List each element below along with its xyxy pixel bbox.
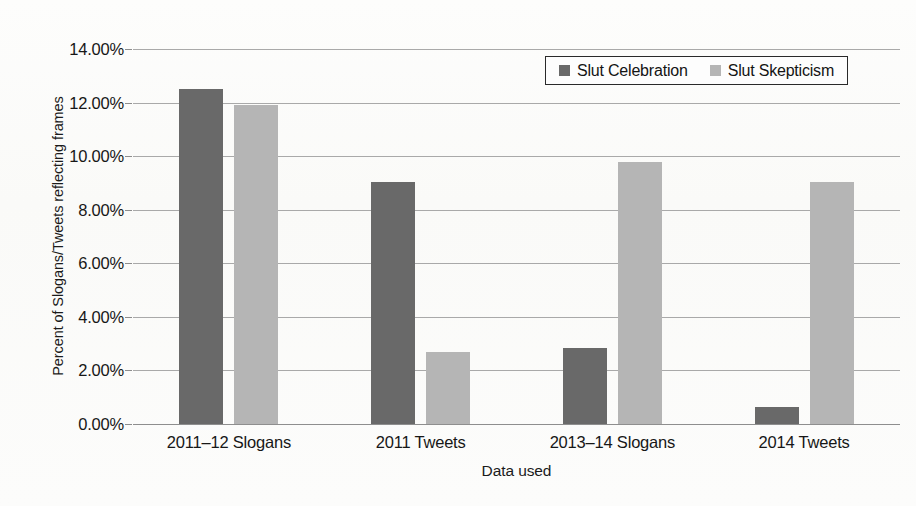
y-axis-tick-label: 14.00% bbox=[40, 41, 124, 57]
plot-area bbox=[133, 49, 900, 424]
y-axis-tickmark bbox=[125, 49, 132, 50]
chart-legend: Slut CelebrationSlut Skepticism bbox=[545, 56, 848, 85]
x-axis-tick-labels: 2011–12 Slogans2011 Tweets2013–14 Slogan… bbox=[133, 432, 900, 458]
x-axis-tick-label: 2014 Tweets bbox=[708, 432, 900, 452]
axis-baseline bbox=[133, 424, 900, 425]
y-axis-tickmark bbox=[125, 156, 132, 157]
y-axis-tick-label: 8.00% bbox=[40, 202, 124, 218]
y-axis-tickmark bbox=[125, 103, 132, 104]
bar bbox=[371, 182, 415, 424]
x-axis-tick-label: 2011 Tweets bbox=[325, 432, 517, 452]
bar bbox=[179, 89, 223, 424]
legend-label: Slut Celebration bbox=[577, 62, 688, 80]
legend-swatch-slut-celebration bbox=[559, 65, 570, 76]
y-axis-tickmark bbox=[125, 370, 132, 371]
gridline bbox=[133, 49, 900, 50]
y-axis-tickmark bbox=[125, 424, 132, 425]
y-axis-tick-label: 0.00% bbox=[40, 416, 124, 432]
bar bbox=[234, 105, 278, 424]
bar bbox=[755, 407, 799, 424]
bar bbox=[563, 348, 607, 424]
bar bbox=[426, 352, 470, 424]
bar bbox=[618, 162, 662, 425]
y-axis-tick-label: 2.00% bbox=[40, 362, 124, 378]
x-axis-tick-label: 2011–12 Slogans bbox=[133, 432, 325, 452]
bar-chart-figure: Percent of Slogans/Tweets reflecting fra… bbox=[0, 0, 916, 506]
y-axis-tick-label: 10.00% bbox=[40, 148, 124, 164]
legend-label: Slut Skepticism bbox=[728, 62, 834, 80]
y-axis-tick-labels: 14.00%12.00%10.00%8.00%6.00%4.00%2.00%0.… bbox=[28, 0, 124, 506]
x-axis-title: Data used bbox=[133, 462, 900, 480]
gridline bbox=[133, 103, 900, 104]
y-axis-tick-label: 12.00% bbox=[40, 95, 124, 111]
y-axis-tick-label: 6.00% bbox=[40, 255, 124, 271]
legend-swatch-slut-skepticism bbox=[710, 65, 721, 76]
y-axis-tickmark bbox=[125, 317, 132, 318]
bar bbox=[810, 182, 854, 424]
legend-entry: Slut Skepticism bbox=[710, 62, 834, 80]
y-axis-tickmark bbox=[125, 263, 132, 264]
y-axis-tick-label: 4.00% bbox=[40, 309, 124, 325]
legend-entry: Slut Celebration bbox=[559, 62, 688, 80]
y-axis-tickmark bbox=[125, 210, 132, 211]
x-axis-tick-label: 2013–14 Slogans bbox=[517, 432, 709, 452]
